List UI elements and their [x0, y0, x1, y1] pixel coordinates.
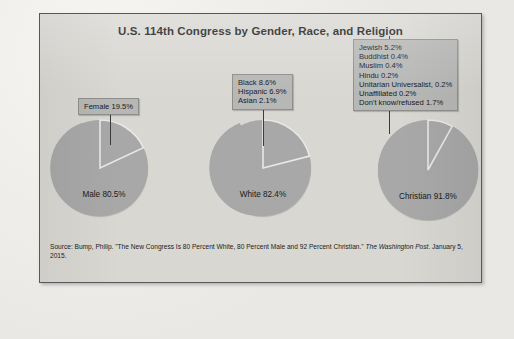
source-publication: The Washington Post [365, 243, 428, 250]
race-pie-group: White 82.4% [190, 112, 342, 222]
callout-line-buddhist: Buddhist 0.4% [359, 52, 452, 61]
gender-main-label: Male 80.5% [64, 190, 144, 199]
gender-pie-group: Male 80.5% [46, 112, 198, 222]
scanned-page-background: U.S. 114th Congress by Gender, Race, and… [0, 0, 514, 339]
religion-pie-group: Christian 91.8% [338, 112, 482, 222]
callout-line-female: Female 19.5% [84, 102, 133, 111]
callout-line-hindu: Hindu 0.2% [359, 71, 452, 80]
race-main-label: White 82.4% [223, 190, 303, 199]
race-callout-box: Black 8.6% Hispanic 6.9% Asian 2.1% [232, 74, 293, 110]
religion-main-label: Christian 91.8% [386, 192, 470, 201]
gender-pie-slices [52, 120, 148, 216]
religion-callout-box: Jewish 5.2% Buddhist 0.4% Muslim 0.4% Hi… [353, 39, 458, 111]
page-title: U.S. 114th Congress by Gender, Race, and… [40, 25, 481, 37]
religion-pie-slices [378, 120, 478, 220]
gender-pie [52, 120, 148, 216]
figure-panel: U.S. 114th Congress by Gender, Race, and… [39, 13, 482, 283]
callout-line-muslim: Muslim 0.4% [359, 61, 452, 70]
callout-line-unaffiliated: Unaffiliated 0.2% [359, 89, 452, 98]
religion-pie [378, 120, 478, 220]
source-text: Source: Bump, Philip. "The New Congress … [50, 243, 365, 250]
gender-callout-box: Female 19.5% [78, 98, 139, 115]
race-leader-line [263, 104, 264, 146]
callout-line-jewish: Jewish 5.2% [359, 43, 452, 52]
callout-line-asian: Asian 2.1% [238, 96, 287, 105]
callout-line-hispanic: Hispanic 6.9% [238, 87, 287, 96]
callout-line-unitarian-universalist: Unitarian Universalist, 0.2% [359, 80, 452, 89]
gender-leader-line [110, 113, 111, 145]
source-citation: Source: Bump, Philip. "The New Congress … [50, 242, 470, 260]
callout-line-black: Black 8.6% [238, 78, 287, 87]
callout-line-dont-know-refused: Don't know/refused 1.7% [359, 98, 452, 107]
